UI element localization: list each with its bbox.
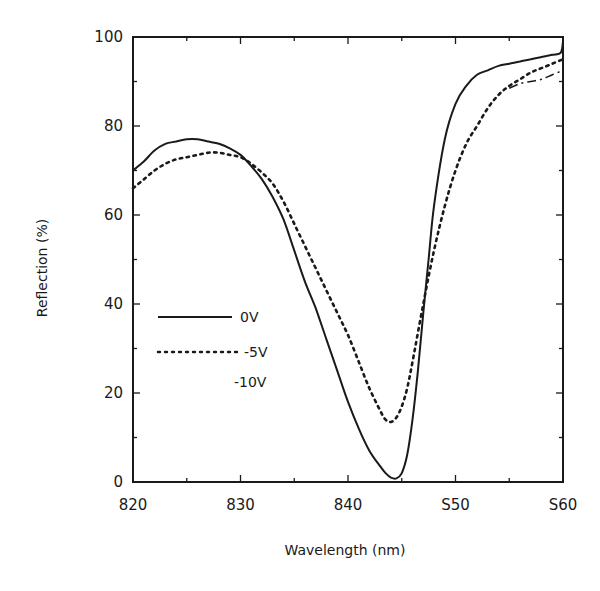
y-tick-label: 40 — [104, 295, 123, 313]
series-0v-line — [133, 41, 563, 478]
legend: 0V-5V-10V — [158, 309, 268, 390]
reflection-chart: 820830840S50S60 020406080100 0V-5V-10V W… — [0, 0, 600, 591]
x-axis-title: Wavelength (nm) — [285, 542, 406, 558]
x-tick-label: 840 — [334, 496, 363, 514]
y-tick-label: 0 — [113, 473, 123, 491]
y-tick-label: 80 — [104, 117, 123, 135]
y-tick-labels: 020406080100 — [94, 28, 123, 491]
plot-frame — [133, 37, 563, 482]
series-5v-line — [133, 59, 563, 422]
y-tick-label: 60 — [104, 206, 123, 224]
legend-label: -10V — [234, 374, 267, 390]
x-tick-label: 820 — [119, 496, 148, 514]
axis-ticks — [133, 37, 563, 482]
y-axis-title: Reflection (%) — [34, 219, 50, 317]
y-tick-label: 20 — [104, 384, 123, 402]
x-tick-label: 830 — [226, 496, 255, 514]
x-tick-label: S60 — [549, 496, 578, 514]
legend-label: 0V — [240, 309, 259, 325]
y-tick-label: 100 — [94, 28, 123, 46]
series-10v-line — [509, 70, 563, 88]
x-tick-label: S50 — [441, 496, 470, 514]
x-tick-labels: 820830840S50S60 — [119, 496, 578, 514]
series-layer — [133, 41, 563, 478]
legend-label: -5V — [244, 344, 268, 360]
